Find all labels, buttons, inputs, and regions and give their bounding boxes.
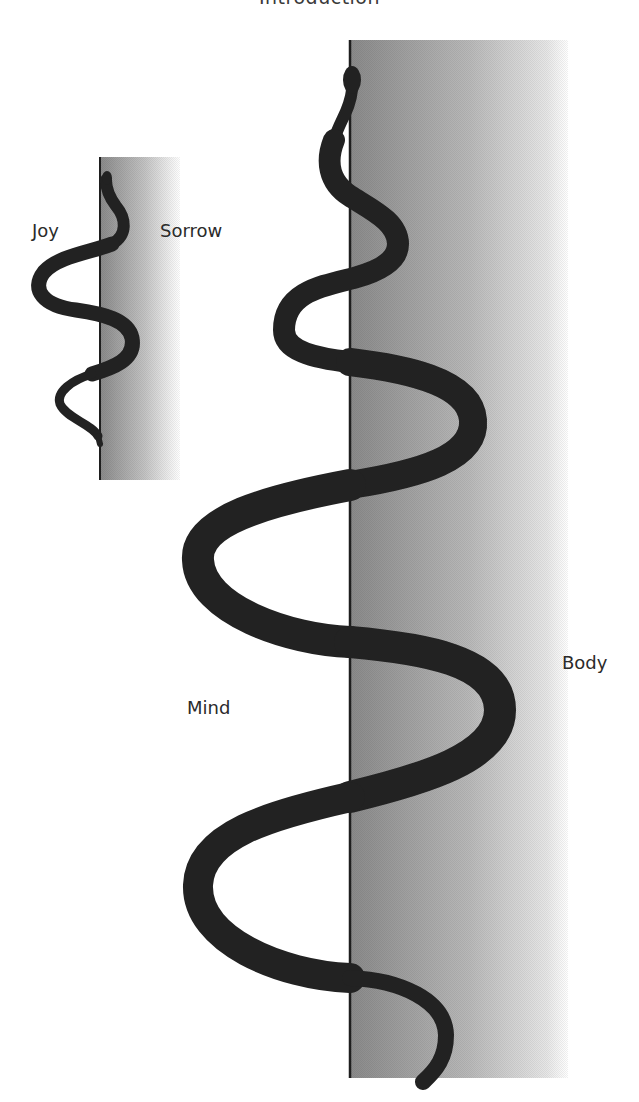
body-label: Body xyxy=(562,652,607,673)
mind-label: Mind xyxy=(187,697,230,718)
joy-label: Joy xyxy=(32,220,59,241)
small-diagram xyxy=(39,157,180,480)
sorrow-label: Sorrow xyxy=(160,220,222,241)
large-diagram xyxy=(198,40,568,1082)
body-dither-texture xyxy=(350,40,568,1078)
mind-body-diagram xyxy=(0,0,639,1102)
